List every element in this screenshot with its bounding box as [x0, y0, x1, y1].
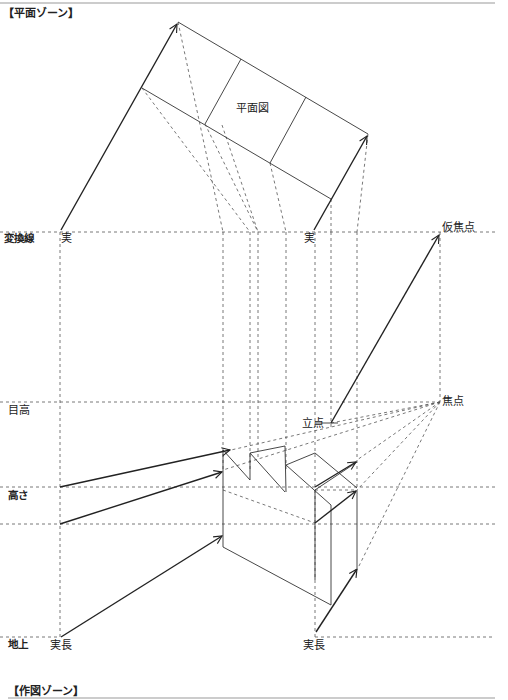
- height-label: 高さ: [8, 490, 28, 501]
- plan-right-arrow: [314, 136, 367, 230]
- temp-focus-label: 仮焦点: [442, 222, 475, 233]
- perspective-box: [223, 446, 357, 605]
- standpoint-label: 立点: [302, 418, 324, 429]
- true-length-right-label: 実長: [303, 640, 325, 651]
- horizontal-reference-lines: [0, 232, 495, 637]
- perspective-arrows: [60, 235, 439, 637]
- focus-lines: [223, 402, 440, 568]
- plan-left-arrow: [61, 24, 177, 230]
- true-length-left-label: 実長: [50, 640, 72, 651]
- transform-line-label: 変換線: [4, 233, 34, 244]
- plan-projection-lines: [142, 22, 368, 232]
- real-right-label: 実: [304, 233, 315, 244]
- ground-label: 地上: [8, 639, 28, 650]
- vertical-projection-lines: [60, 232, 440, 637]
- eye-level-label: 目高: [8, 405, 30, 416]
- focus-label: 焦点: [442, 396, 464, 407]
- real-left-label: 実: [61, 233, 72, 244]
- plan-view-label: 平面図: [236, 103, 269, 114]
